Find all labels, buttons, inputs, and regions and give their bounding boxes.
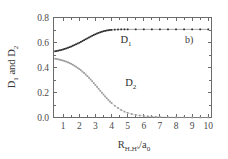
data-point-marker — [59, 49, 61, 51]
data-point-marker — [101, 92, 103, 94]
x-axis-label-base: R — [118, 139, 125, 150]
data-point-marker — [109, 101, 111, 103]
x-tick-label: 10 — [204, 121, 214, 131]
data-point-marker — [67, 62, 69, 64]
y-tick-label: 0.2 — [37, 88, 49, 98]
data-point-marker — [82, 71, 84, 73]
data-point-marker — [135, 29, 137, 31]
data-point-marker — [109, 29, 111, 31]
y-tick-labels: 0.00.20.40.60.8 — [37, 13, 49, 123]
data-point-marker — [72, 64, 74, 66]
data-point-marker — [67, 47, 69, 49]
data-point-marker — [107, 29, 109, 31]
x-axis-label-sub2: 0 — [147, 145, 151, 153]
data-point-marker — [61, 49, 63, 51]
data-point-marker — [167, 116, 169, 118]
data-point-marker — [95, 84, 97, 86]
data-point-marker — [74, 65, 76, 67]
panel-label: b) — [185, 34, 193, 46]
chart-annotations: D1D2b) — [120, 34, 193, 91]
data-point-marker — [175, 117, 177, 119]
data-point-marker — [159, 116, 161, 118]
data-point-marker — [96, 33, 98, 35]
data-point-marker — [199, 29, 201, 31]
x-tick-label: 6 — [141, 121, 146, 131]
data-point-marker — [54, 50, 56, 52]
data-point-marker — [57, 50, 59, 52]
data-point-marker — [91, 80, 93, 82]
data-point-marker — [85, 74, 87, 76]
svg-text:RHₐHᵇ/a0: RHₐHᵇ/a0 — [118, 139, 151, 153]
data-point-marker — [106, 30, 108, 32]
data-point-marker — [83, 72, 85, 74]
d1-curve-label-sub: 1 — [128, 40, 132, 48]
data-point-marker — [99, 90, 101, 92]
y-axis-label-d2-sub: 2 — [12, 45, 20, 49]
data-point-marker — [91, 35, 93, 37]
data-point-marker — [143, 115, 145, 117]
data-point-marker — [99, 31, 101, 33]
data-point-marker — [74, 44, 76, 46]
data-point-marker — [82, 40, 84, 42]
data-point-marker — [69, 46, 71, 48]
data-point-marker — [111, 102, 113, 104]
data-point-marker — [147, 116, 149, 118]
data-point-marker — [62, 60, 64, 62]
data-point-marker — [77, 43, 79, 45]
svg-text:D1 and D2: D1 and D2 — [6, 45, 20, 88]
data-point-marker — [159, 29, 161, 31]
data-point-marker — [117, 107, 119, 109]
d2-curve-label-sub: 2 — [133, 83, 137, 91]
series-d2 — [54, 58, 209, 118]
data-point-marker — [54, 58, 56, 60]
data-point-marker — [59, 59, 61, 61]
x-tick-label: 2 — [77, 121, 82, 131]
x-tick-label: 5 — [125, 121, 130, 131]
data-point-marker — [62, 49, 64, 51]
d2-curve-label: D2 — [125, 77, 137, 91]
data-point-marker — [103, 94, 105, 96]
y-tick-label: 0.8 — [37, 13, 49, 23]
data-point-marker — [90, 79, 92, 81]
data-point-marker — [207, 29, 209, 31]
data-point-marker — [93, 34, 95, 36]
data-point-marker — [103, 30, 105, 32]
data-point-marker — [83, 39, 85, 41]
data-point-marker — [199, 117, 201, 119]
y-tick-label: 0.4 — [37, 63, 49, 73]
data-point-marker — [127, 29, 129, 31]
data-point-marker — [151, 29, 153, 31]
data-point-marker — [90, 36, 92, 38]
x-tick-label: 8 — [174, 121, 179, 131]
data-point-marker — [104, 96, 106, 98]
data-point-marker — [56, 50, 58, 52]
data-point-marker — [120, 29, 122, 31]
data-point-marker — [72, 45, 74, 47]
data-point-marker — [88, 77, 90, 79]
data-point-marker — [167, 29, 169, 31]
data-point-marker — [66, 48, 68, 50]
data-point-marker — [64, 48, 66, 50]
data-point-marker — [139, 115, 141, 117]
data-point-marker — [117, 29, 119, 31]
data-point-marker — [64, 60, 66, 62]
data-point-marker — [75, 43, 77, 45]
data-point-marker — [93, 82, 95, 84]
data-point-marker — [191, 29, 193, 31]
data-point-marker — [69, 62, 71, 64]
data-point-marker — [98, 88, 100, 90]
data-point-marker — [207, 117, 209, 119]
x-tick-label: 3 — [93, 121, 98, 131]
data-point-marker — [87, 75, 89, 77]
data-point-marker — [107, 99, 109, 101]
data-point-marker — [101, 31, 103, 33]
data-point-marker — [175, 29, 177, 31]
data-point-marker — [124, 29, 126, 31]
data-point-marker — [95, 33, 97, 35]
data-point-marker — [61, 59, 63, 61]
x-axis-label-sub: HₐHᵇ — [125, 145, 140, 153]
x-tick-labels: 12345678910 — [61, 121, 213, 131]
data-point-marker — [78, 42, 80, 44]
data-point-marker — [151, 116, 153, 118]
data-point-marker — [120, 109, 122, 111]
